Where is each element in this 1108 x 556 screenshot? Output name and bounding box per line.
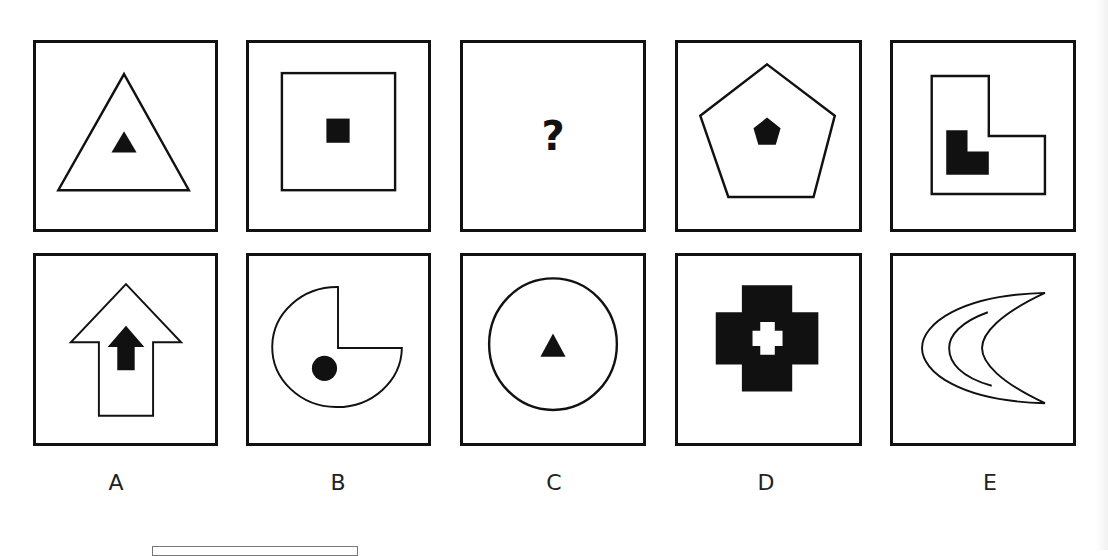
l-shape-in-l-shape-icon: [893, 43, 1073, 229]
pacman-with-dot-icon: [249, 256, 428, 443]
triangle-in-triangle-icon: [36, 43, 215, 229]
top-cell-l-shape: [890, 40, 1076, 232]
top-cell-pentagon: [675, 40, 862, 232]
option-label-d: D: [736, 470, 796, 495]
top-cell-unknown[interactable]: ?: [460, 40, 646, 232]
option-label-b: B: [308, 470, 368, 495]
arrow-in-arrow-icon: [36, 256, 215, 443]
crescent-with-arc-icon: [893, 256, 1073, 443]
option-b-pacman[interactable]: [246, 253, 431, 446]
square-in-square-icon: [249, 43, 428, 229]
option-c-circle[interactable]: [460, 253, 646, 446]
option-label-a: A: [86, 470, 146, 495]
answer-input-box[interactable]: [152, 546, 358, 556]
pentagon-in-pentagon-icon: [678, 43, 859, 229]
top-cell-triangle: [33, 40, 218, 232]
option-label-e: E: [960, 470, 1020, 495]
question-mark: ?: [463, 43, 643, 229]
option-d-cross[interactable]: [675, 253, 862, 446]
option-a-arrow[interactable]: [33, 253, 218, 446]
top-cell-square: [246, 40, 431, 232]
option-label-c: C: [524, 470, 584, 495]
page-edge-shadow: [1096, 0, 1108, 550]
option-e-crescent[interactable]: [890, 253, 1076, 446]
cross-in-cross-icon: [678, 256, 859, 443]
triangle-in-circle-icon: [463, 256, 643, 443]
